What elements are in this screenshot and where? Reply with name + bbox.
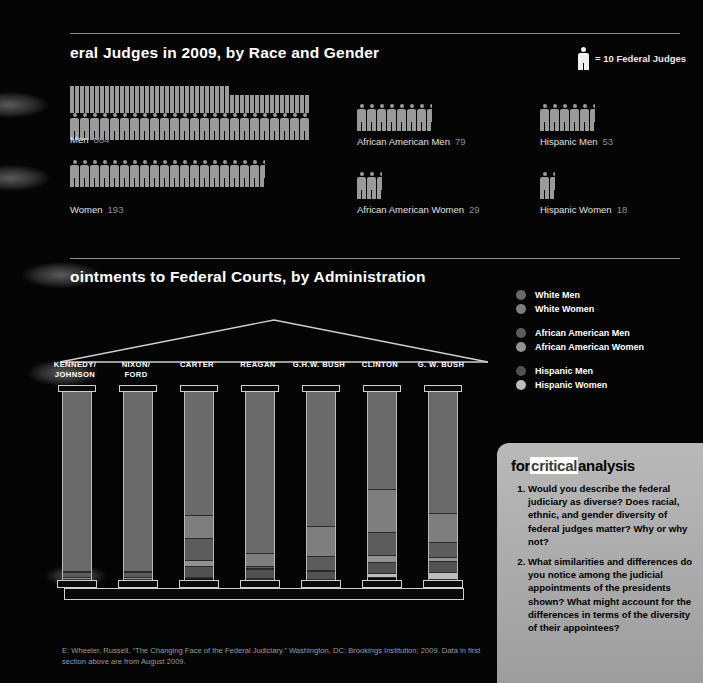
person-icon	[90, 86, 99, 95]
scan-artifact-mid	[0, 165, 50, 191]
stack-segment[interactable]: 72%	[307, 392, 335, 527]
person-icon	[80, 104, 89, 113]
column-shaft: 67%16%8%2%6%4%	[428, 392, 458, 580]
person-icon	[100, 160, 109, 187]
person-icon	[170, 95, 179, 104]
person-icon	[210, 113, 219, 140]
pictogram-group-hispanic-women	[540, 172, 670, 199]
legend-item[interactable]: White Men	[516, 288, 644, 302]
pediment-roof	[58, 318, 490, 363]
person-icon	[110, 160, 119, 187]
person-icon	[90, 160, 99, 187]
pictogram-rows	[70, 160, 310, 187]
person-icon	[110, 113, 119, 140]
person-icon	[240, 95, 249, 104]
stack-segment[interactable]: 6%	[185, 567, 213, 578]
stack-segment[interactable]: 16%	[429, 514, 457, 543]
person-icon	[140, 104, 149, 113]
person-icon	[70, 160, 79, 187]
stack-segment[interactable]: 6%	[368, 563, 396, 574]
stack-segment[interactable]: 96%	[63, 392, 91, 572]
temple-column[interactable]: 96%<1%3%1%	[62, 385, 92, 588]
person-icon	[190, 95, 199, 104]
temple-column[interactable]: 72%16%7%1%4%	[306, 385, 336, 588]
stack-segment[interactable]: 52%	[368, 392, 396, 490]
stack-segment[interactable]: 96%	[124, 392, 152, 572]
stack-segment[interactable]: 67%	[429, 392, 457, 514]
stack-segment[interactable]: <1%	[185, 578, 213, 579]
stack-segment[interactable]: 7%	[307, 557, 335, 570]
pictogram-row	[357, 104, 487, 131]
temple-stylobate	[64, 588, 464, 600]
stack-segment[interactable]: 5%	[246, 570, 274, 579]
person-icon	[140, 86, 149, 95]
person-icon	[170, 160, 179, 187]
person-icon	[540, 172, 549, 199]
stack-segment[interactable]: 4%	[429, 573, 457, 580]
legend-item[interactable]: White Women	[516, 302, 644, 316]
pictogram-row	[540, 172, 670, 199]
person-icon	[170, 86, 179, 95]
pictogram-group-value: 53	[603, 136, 614, 147]
stack-segment[interactable]: 6%	[429, 562, 457, 573]
column-label-g-h-w-bush: G.H.W. BUSH	[288, 360, 350, 370]
stack-segment[interactable]: 12%	[185, 539, 213, 562]
legend-item[interactable]: African American Men	[516, 326, 644, 340]
person-icon	[120, 160, 129, 187]
person-icon	[300, 95, 309, 104]
temple-column[interactable]: 52%23%12%4%6%2%	[367, 385, 397, 588]
stack-segment[interactable]: 4%	[307, 572, 335, 580]
person-icon	[427, 104, 432, 131]
column-shaft: 72%16%7%1%4%	[306, 392, 336, 580]
pictogram-label-african-american-women: African American Women29	[357, 204, 480, 215]
person-icon	[540, 104, 549, 131]
person-icon	[357, 172, 366, 199]
person-icon	[150, 95, 159, 104]
legend-item[interactable]: Hispanic Men	[516, 364, 644, 378]
person-icon	[130, 160, 139, 187]
person-icon	[190, 86, 199, 95]
column-shaft: 96%<1%3%1%	[62, 392, 92, 580]
person-icon	[260, 160, 265, 187]
pictogram-group-value: 79	[455, 136, 466, 147]
person-icon	[387, 104, 396, 131]
stack-segment[interactable]: 2%	[368, 574, 396, 578]
person-icon	[230, 104, 239, 113]
legend-label: White Men	[535, 290, 580, 300]
temple-column[interactable]: 67%16%8%2%6%4%	[428, 385, 458, 588]
person-icon	[170, 104, 179, 113]
person-icon	[100, 86, 109, 95]
stack-segment[interactable]: 8%	[429, 543, 457, 558]
person-icon	[180, 95, 189, 104]
person-icon	[150, 104, 159, 113]
stack-segment[interactable]: 23%	[368, 490, 396, 533]
person-icon	[80, 160, 89, 187]
section1-divider	[70, 33, 680, 34]
legend-swatch-icon	[516, 366, 526, 376]
pictogram-row	[70, 95, 310, 104]
legend-item[interactable]: African American Women	[516, 340, 644, 354]
stack-segment[interactable]: 7%	[246, 554, 274, 567]
stack-segment[interactable]: 66%	[185, 392, 213, 516]
stack-segment[interactable]: 4%	[368, 556, 396, 564]
temple-column[interactable]: 66%12%12%3%6%<1%	[184, 385, 214, 588]
person-icon	[130, 113, 139, 140]
person-icon	[250, 160, 259, 187]
pictogram-key: = 10 Federal Judges	[578, 47, 686, 70]
legend-item[interactable]: Hispanic Women	[516, 378, 644, 392]
stack-segment[interactable]: 86%	[246, 392, 274, 554]
person-icon	[80, 86, 89, 95]
person-icon	[210, 160, 219, 187]
stack-segment[interactable]: 16%	[307, 527, 335, 557]
temple-column[interactable]: 96%<1%3%1%	[123, 385, 153, 588]
legend-spacer	[516, 354, 644, 364]
stack-segment[interactable]: 12%	[185, 516, 213, 539]
person-icon	[397, 104, 406, 131]
pictogram-row	[70, 104, 310, 113]
temple-column[interactable]: 86%7%1%<1%5%<1%	[245, 385, 275, 588]
source-note: E: Wheeler, Russell, “The Changing Face …	[62, 645, 482, 667]
stack-segment[interactable]: 12%	[368, 533, 396, 556]
pictogram-group-african-american-men	[357, 104, 487, 131]
pictogram-row	[357, 172, 487, 199]
temple-chart: KENNEDY/ JOHNSONNIXON/ FORDCARTERREAGANG…	[0, 300, 500, 610]
